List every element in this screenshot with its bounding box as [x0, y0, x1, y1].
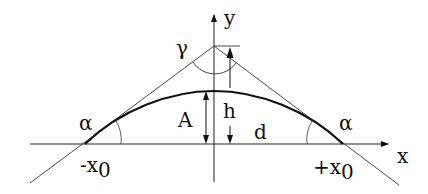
- h-label: h: [223, 99, 236, 123]
- gamma-label: γ: [176, 36, 188, 60]
- d-label: d: [254, 120, 267, 144]
- y-axis-label: y: [223, 6, 236, 30]
- neg-x0-main: -x: [80, 153, 99, 177]
- alpha-left-angle-arc: [116, 121, 121, 144]
- arc-tangent-diagram: y x γ α α A h d -x0 +x0: [0, 0, 428, 194]
- neg-x0-label: -x0: [80, 153, 111, 182]
- pos-x0-main: +x: [313, 155, 342, 179]
- neg-x0-subscript: 0: [98, 158, 111, 182]
- x-axis-label: x: [397, 144, 409, 168]
- pos-x0-label: +x0: [313, 155, 354, 184]
- pos-x0-subscript: 0: [341, 160, 354, 184]
- A-arrow-bottom-icon: [203, 135, 209, 144]
- alpha-right-angle-arc: [307, 121, 312, 144]
- alpha-left-label: α: [79, 111, 93, 135]
- h-arrow-down-icon: [227, 135, 233, 144]
- h-arrow-up-icon: [227, 47, 234, 58]
- alpha-right-label: α: [339, 111, 353, 135]
- A-label: A: [177, 108, 193, 132]
